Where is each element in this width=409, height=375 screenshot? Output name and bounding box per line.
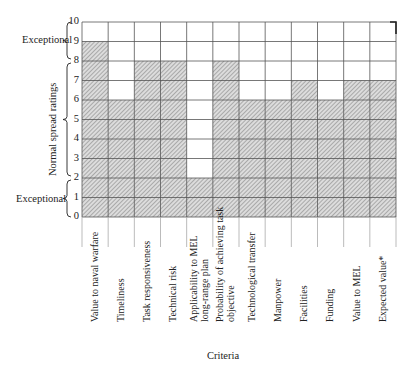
bar xyxy=(370,81,396,218)
y-tick-label: 4 xyxy=(67,132,79,143)
x-category-label: Task responsiveness xyxy=(142,241,153,322)
bar xyxy=(82,42,108,218)
y-tick-label: 5 xyxy=(67,113,79,124)
y-tick-label: 0 xyxy=(67,210,79,221)
x-category-label: Manpower xyxy=(273,279,284,322)
x-category-label: Facilities xyxy=(299,285,310,322)
y-axis-title: Normal spread ratings xyxy=(47,83,58,176)
x-category-label: Technical risk xyxy=(168,266,179,322)
y-tick-label: 2 xyxy=(67,171,79,182)
x-axis-title: Criteria xyxy=(207,350,239,361)
bar xyxy=(291,81,317,218)
exceptional-bottom-label: Exceptional xyxy=(16,193,66,204)
x-category-label: Value to naval warfare xyxy=(90,232,101,322)
y-tick-label: 6 xyxy=(67,93,79,104)
y-tick-label: 9 xyxy=(67,35,79,46)
bar xyxy=(344,81,370,218)
y-tick-label: 7 xyxy=(67,74,79,85)
exceptional-top-label: Exceptional xyxy=(22,34,72,45)
rating-chart: Exceptional Exceptional Normal spread ra… xyxy=(0,0,409,375)
y-tick-label: 10 xyxy=(67,15,79,26)
x-category-label: Technological transfer xyxy=(247,232,258,322)
y-tick-label: 8 xyxy=(67,54,79,65)
y-tick-label: 1 xyxy=(67,191,79,202)
x-category-label: Funding xyxy=(325,289,336,322)
x-category-label: Probability of achieving taskobjective xyxy=(215,207,236,322)
x-category-label: Expected value* xyxy=(378,256,389,322)
x-category-label: Timeliness xyxy=(116,278,127,322)
x-category-label: Applicability to MELlong-range plan xyxy=(189,235,210,322)
y-tick-label: 3 xyxy=(67,152,79,163)
x-category-label: Value to MEL xyxy=(352,265,363,322)
